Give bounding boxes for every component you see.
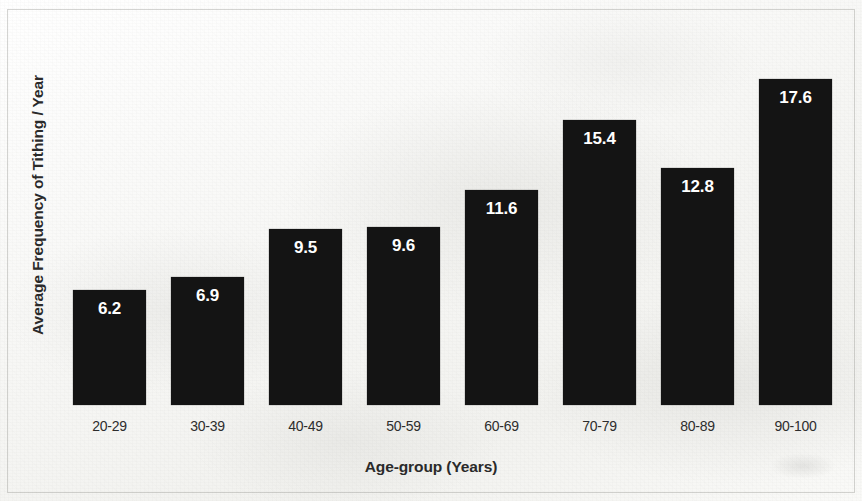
bar-value-label: 12.8: [661, 177, 734, 197]
bar-60-69: 11.6: [465, 190, 538, 405]
bar-rect: [661, 168, 734, 405]
bar-90-100: 17.6: [759, 79, 832, 405]
bar-80-89: 12.8: [661, 168, 734, 405]
bar-40-49: 9.5: [269, 229, 342, 405]
bar-rect: [563, 120, 636, 405]
bar-rect: [759, 79, 832, 405]
x-tick-label-40-49: 40-49: [269, 418, 342, 434]
bar-50-59: 9.6: [367, 227, 440, 405]
y-axis-title: Average Frequency of Tithing / Year: [29, 15, 47, 395]
x-tick-label-60-69: 60-69: [465, 418, 538, 434]
bar-value-label: 15.4: [563, 129, 636, 149]
bar-value-label: 9.5: [269, 238, 342, 258]
x-tick-label-30-39: 30-39: [171, 418, 244, 434]
x-tick-label-90-100: 90-100: [759, 418, 832, 434]
x-tick-label-80-89: 80-89: [661, 418, 734, 434]
bar-30-39: 6.9: [171, 277, 244, 405]
x-tick-label-70-79: 70-79: [563, 418, 636, 434]
bar-rect: [465, 190, 538, 405]
plot-area: 6.26.99.59.611.615.412.817.6: [73, 20, 833, 405]
bar-value-label: 11.6: [465, 199, 538, 219]
x-axis-title: Age-group (Years): [0, 458, 862, 476]
bar-value-label: 6.2: [73, 299, 146, 319]
bar-20-29: 6.2: [73, 290, 146, 405]
bar-chart-figure: Average Frequency of Tithing / Year 6.26…: [0, 0, 862, 501]
x-tick-label-20-29: 20-29: [73, 418, 146, 434]
bar-value-label: 9.6: [367, 236, 440, 256]
bar-70-79: 15.4: [563, 120, 636, 405]
bar-value-label: 6.9: [171, 286, 244, 306]
x-tick-label-50-59: 50-59: [367, 418, 440, 434]
bar-value-label: 17.6: [759, 88, 832, 108]
